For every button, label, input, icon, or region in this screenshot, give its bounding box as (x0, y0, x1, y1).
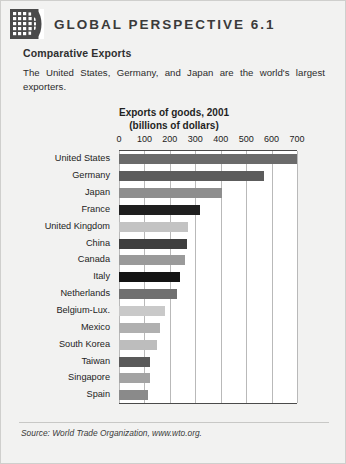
x-tick-label: 200 (162, 134, 177, 144)
category-label: Germany (1, 167, 115, 184)
bar-row (119, 319, 297, 336)
bar-row (119, 269, 297, 286)
x-tick-label: 500 (239, 134, 254, 144)
bar (119, 357, 150, 367)
plot-area (119, 150, 297, 404)
category-label: United States (1, 150, 115, 167)
intro-paragraph: The United States, Germany, and Japan ar… (23, 66, 325, 94)
source-divider (19, 422, 329, 423)
bar-row (119, 168, 297, 185)
x-tick-label: 0 (116, 134, 121, 144)
category-label: Italy (1, 268, 115, 285)
bar-row (119, 336, 297, 353)
category-label: United Kingdom (1, 217, 115, 234)
x-tick-label: 700 (289, 134, 304, 144)
category-label: Spain (1, 386, 115, 403)
category-label: Taiwan (1, 352, 115, 369)
x-tick-label: 300 (188, 134, 203, 144)
bar (119, 239, 187, 249)
bar (119, 390, 148, 400)
page-title: GLOBAL PERSPECTIVE 6.1 (54, 17, 276, 32)
x-tick-label: 400 (213, 134, 228, 144)
bar-row (119, 202, 297, 219)
bar (119, 340, 157, 350)
category-label: South Korea (1, 335, 115, 352)
intro-block: Comparative Exports The United States, G… (1, 47, 346, 94)
bar-row (119, 370, 297, 387)
bar (119, 154, 297, 164)
global-perspective-box: GLOBAL PERSPECTIVE 6.1 Comparative Expor… (0, 0, 346, 464)
bar (119, 188, 222, 198)
bar (119, 289, 177, 299)
bar-row (119, 185, 297, 202)
bar-row (119, 151, 297, 168)
chart-title: Exports of goods, 2001 (billions of doll… (1, 106, 346, 132)
bar (119, 222, 188, 232)
bar-row (119, 303, 297, 320)
bar (119, 171, 264, 181)
x-tick-label: 100 (137, 134, 152, 144)
bar (119, 306, 165, 316)
category-label: Netherlands (1, 285, 115, 302)
category-label: China (1, 234, 115, 251)
bar (119, 323, 160, 333)
y-axis-category-labels: United StatesGermanyJapanFranceUnited Ki… (1, 150, 115, 404)
bar-row (119, 218, 297, 235)
bar-row (119, 252, 297, 269)
gridline (297, 151, 298, 403)
category-label: Belgium-Lux. (1, 302, 115, 319)
x-tick-label: 600 (264, 134, 279, 144)
category-label: Canada (1, 251, 115, 268)
chart-panel: Exports of goods, 2001 (billions of doll… (1, 104, 346, 417)
bar-series (119, 151, 297, 403)
bar (119, 373, 150, 383)
category-label: Singapore (1, 369, 115, 386)
globe-grid-icon (10, 9, 44, 39)
category-label: Mexico (1, 318, 115, 335)
bar-row (119, 353, 297, 370)
chart-title-line1: Exports of goods, 2001 (119, 107, 229, 118)
chart-title-line2: (billions of dollars) (1, 119, 346, 132)
source-note: Source: World Trade Organization, www.wt… (21, 428, 202, 438)
bar-row (119, 235, 297, 252)
bar-row (119, 286, 297, 303)
bar (119, 205, 200, 215)
box-header: GLOBAL PERSPECTIVE 6.1 (1, 1, 346, 47)
bar (119, 255, 185, 265)
bar-row (119, 387, 297, 404)
section-subtitle: Comparative Exports (23, 47, 325, 59)
category-label: France (1, 201, 115, 218)
x-axis-tick-labels: 0100200300400500600700 (119, 134, 297, 147)
category-label: Japan (1, 184, 115, 201)
bar (119, 272, 180, 282)
